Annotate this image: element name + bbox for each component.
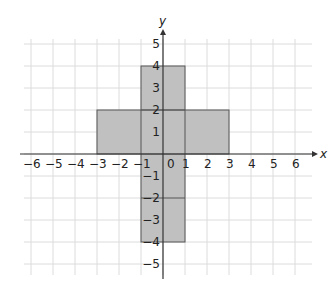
x-tick-label: −4 xyxy=(67,157,85,171)
y-tick-label: −3 xyxy=(142,213,160,227)
x-tick-label: 1 xyxy=(182,157,190,171)
y-tick-label: −2 xyxy=(142,191,160,205)
y-tick-label: 4 xyxy=(152,59,160,73)
y-tick-label: −4 xyxy=(142,235,160,249)
x-tick-label: 0 xyxy=(167,157,175,171)
x-tick-label: 4 xyxy=(248,157,256,171)
y-tick-label: 3 xyxy=(152,81,160,95)
coordinate-plane: xy −6−5−4−3−2−1012345654321−1−2−3−4−5 xyxy=(0,0,330,303)
y-axis-arrow-icon xyxy=(160,29,166,35)
y-tick-label: 5 xyxy=(152,37,160,51)
x-tick-label: −2 xyxy=(111,157,129,171)
x-tick-label: 6 xyxy=(292,157,300,171)
y-tick-label: −5 xyxy=(142,257,160,271)
x-tick-label: −5 xyxy=(45,157,63,171)
x-axis-label: x xyxy=(319,147,328,161)
x-tick-label: 2 xyxy=(204,157,212,171)
y-tick-label: 1 xyxy=(152,125,160,139)
y-axis-label: y xyxy=(158,14,167,28)
x-tick-label: −3 xyxy=(89,157,107,171)
x-tick-label: −6 xyxy=(23,157,41,171)
x-axis-arrow-icon xyxy=(312,151,318,157)
y-tick-label: −1 xyxy=(142,169,160,183)
x-tick-label: 3 xyxy=(226,157,234,171)
x-tick-label: 5 xyxy=(270,157,278,171)
y-tick-label: 2 xyxy=(152,103,160,117)
